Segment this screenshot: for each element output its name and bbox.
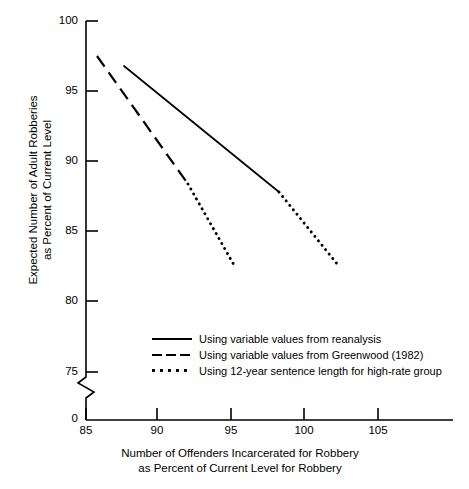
series-dashed-greenwood [97, 56, 188, 184]
x-axis-title-line1: Number of Offenders Incarcerated for Rob… [60, 446, 420, 461]
chart-figure: 100 95 90 85 80 75 0 85 90 95 100 105 Ex… [0, 0, 469, 489]
chart-legend: Using variable values from reanalysis Us… [152, 331, 452, 379]
legend-entry-dashed: Using variable values from Greenwood (19… [152, 347, 452, 363]
legend-label-solid: Using variable values from reanalysis [199, 333, 381, 345]
dashed-line-key-icon [152, 349, 192, 361]
legend-label-dashed: Using variable values from Greenwood (19… [199, 349, 423, 361]
y-tick-label-75: 75 [44, 365, 78, 377]
x-tick-label-90: 90 [140, 424, 174, 436]
series-dotted-left-12yr [188, 184, 234, 265]
y-axis-title: Expected Number of Adult Robberies as Pe… [26, 65, 54, 315]
y-axis-title-line2: as Percent of Current Level [40, 65, 54, 315]
legend-entry-dotted: Using 12-year sentence length for high-r… [152, 363, 452, 379]
dotted-line-key-icon [152, 365, 192, 377]
legend-label-dotted: Using 12-year sentence length for high-r… [199, 365, 442, 377]
series-solid-reanalysis [124, 66, 279, 192]
x-axis-title-line2: as Percent of Current Level for Robbery [60, 461, 420, 476]
x-tick-label-100: 100 [287, 424, 321, 436]
x-tick-label-85: 85 [69, 424, 103, 436]
x-tick-label-95: 95 [214, 424, 248, 436]
y-tick-label-0: 0 [44, 412, 78, 424]
legend-entry-solid: Using variable values from reanalysis [152, 331, 452, 347]
series-dotted-right-12yr [279, 192, 338, 265]
x-axis-title: Number of Offenders Incarcerated for Rob… [60, 446, 420, 476]
x-tick-label-105: 105 [361, 424, 395, 436]
y-axis-title-line1: Expected Number of Adult Robberies [26, 65, 40, 315]
y-tick-label-100: 100 [44, 14, 78, 26]
solid-line-key-icon [152, 333, 192, 345]
